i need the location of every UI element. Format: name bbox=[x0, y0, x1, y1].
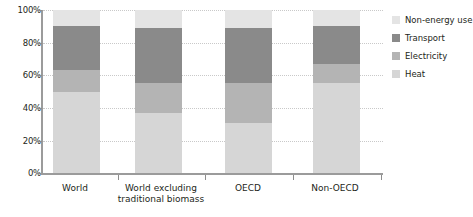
segment-world-excl-heat[interactable] bbox=[135, 113, 182, 173]
x-label-world-excl-line-1: World excluding bbox=[114, 183, 208, 194]
x-tick-mark-3 bbox=[293, 175, 294, 180]
y-tick-label-60: 60% bbox=[7, 71, 41, 80]
y-tick-mark-60 bbox=[37, 75, 42, 76]
y-tick-20: 20% bbox=[0, 137, 41, 146]
segment-world-transport[interactable] bbox=[53, 26, 100, 70]
legend-item-non-energy-use[interactable]: Non-energy use bbox=[392, 12, 473, 28]
x-label-oecd: OECD bbox=[205, 183, 291, 194]
legend-item-heat[interactable]: Heat bbox=[392, 66, 473, 82]
legend-swatch-transport bbox=[392, 34, 400, 42]
segment-non-oecd-heat[interactable] bbox=[313, 83, 360, 173]
y-tick-mark-20 bbox=[37, 141, 42, 142]
y-tick-mark-80 bbox=[37, 43, 42, 44]
y-tick-label-80: 80% bbox=[7, 39, 41, 48]
x-label-non-oecd-line-1: Non-OECD bbox=[292, 183, 378, 194]
x-tick-mark-4 bbox=[381, 175, 382, 180]
legend-item-transport[interactable]: Transport bbox=[392, 30, 473, 46]
stacked-bar-chart: 100% 80% 60% 40% 20% 0% bbox=[0, 0, 473, 217]
segment-oecd-non-energy-use[interactable] bbox=[225, 10, 272, 28]
legend-label-electricity: Electricity bbox=[405, 52, 447, 61]
y-tick-label-0: 0% bbox=[7, 169, 41, 178]
x-label-world-line-1: World bbox=[32, 183, 118, 194]
x-label-world: World bbox=[32, 183, 118, 194]
segment-world-electricity[interactable] bbox=[53, 70, 100, 91]
segment-non-oecd-non-energy-use[interactable] bbox=[313, 10, 360, 26]
x-tick-mark-2 bbox=[205, 175, 206, 180]
segment-non-oecd-electricity[interactable] bbox=[313, 64, 360, 84]
y-tick-mark-40 bbox=[37, 108, 42, 109]
legend-swatch-non-energy-use bbox=[392, 16, 400, 24]
x-tick-mark-1 bbox=[118, 175, 119, 180]
y-tick-60: 60% bbox=[0, 71, 41, 80]
y-tick-mark-100 bbox=[37, 10, 42, 11]
x-label-world-excluding-traditional-biomass: World excluding traditional biomass bbox=[114, 183, 208, 205]
segment-oecd-heat[interactable] bbox=[225, 123, 272, 174]
y-tick-label-100: 100% bbox=[7, 6, 41, 15]
x-label-non-oecd: Non-OECD bbox=[292, 183, 378, 194]
legend-label-non-energy-use: Non-energy use bbox=[405, 16, 472, 25]
y-tick-label-20: 20% bbox=[7, 137, 41, 146]
y-tick-0: 0% bbox=[0, 169, 41, 178]
legend: Non-energy use Transport Electricity Hea… bbox=[392, 12, 473, 84]
y-tick-40: 40% bbox=[0, 104, 41, 113]
segment-world-excl-transport[interactable] bbox=[135, 28, 182, 83]
legend-swatch-electricity bbox=[392, 52, 400, 60]
y-tick-label-40: 40% bbox=[7, 104, 41, 113]
segment-world-heat[interactable] bbox=[53, 92, 100, 174]
segment-non-oecd-transport[interactable] bbox=[313, 26, 360, 64]
x-label-oecd-line-1: OECD bbox=[205, 183, 291, 194]
segment-world-excl-non-energy-use[interactable] bbox=[135, 10, 182, 28]
segment-oecd-electricity[interactable] bbox=[225, 83, 272, 122]
segment-oecd-transport[interactable] bbox=[225, 28, 272, 83]
segment-world-non-energy-use[interactable] bbox=[53, 10, 100, 26]
x-axis-line bbox=[41, 173, 383, 175]
legend-item-electricity[interactable]: Electricity bbox=[392, 48, 473, 64]
legend-label-heat: Heat bbox=[405, 70, 425, 79]
segment-world-excl-electricity[interactable] bbox=[135, 83, 182, 112]
legend-swatch-heat bbox=[392, 70, 400, 78]
plot-area bbox=[43, 10, 383, 173]
x-label-world-excl-line-2: traditional biomass bbox=[114, 194, 208, 205]
y-tick-100: 100% bbox=[0, 6, 41, 15]
y-tick-80: 80% bbox=[0, 39, 41, 48]
legend-label-transport: Transport bbox=[405, 34, 445, 43]
